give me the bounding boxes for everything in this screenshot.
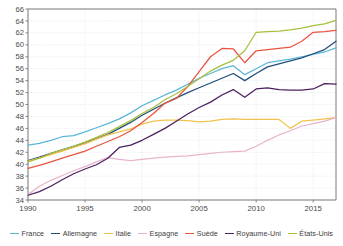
legend-label-italie: Italie bbox=[116, 230, 131, 237]
legend-label-royaume-uni: Royaume-Uni bbox=[236, 230, 281, 237]
y-tick-label: 66 bbox=[16, 5, 24, 14]
x-tick-label: 2010 bbox=[247, 204, 265, 213]
legend-swatch-espagne bbox=[138, 233, 147, 234]
legend-label-france: France bbox=[21, 230, 44, 237]
legend-swatch-tats-unis bbox=[288, 233, 297, 234]
chart-legend: FranceAllemagneItalieEspagneSuèdeRoyaume… bbox=[0, 222, 343, 246]
legend-item-france[interactable]: France bbox=[10, 230, 44, 237]
legend-item-tats-unis[interactable]: États-Unis bbox=[288, 230, 333, 237]
legend-label-espagne: Espagne bbox=[150, 230, 179, 237]
x-tick-label: 2000 bbox=[133, 204, 151, 213]
x-tick-label: 2015 bbox=[305, 204, 323, 213]
line-chart: 3436384042444648505254565860626466199019… bbox=[0, 0, 343, 246]
y-tick-label: 36 bbox=[16, 184, 24, 193]
legend-label-tats-unis: États-Unis bbox=[299, 230, 333, 237]
legend-item-italie[interactable]: Italie bbox=[104, 230, 131, 237]
legend-swatch-france bbox=[10, 233, 19, 234]
y-tick-label: 64 bbox=[16, 17, 24, 26]
y-tick-label: 56 bbox=[16, 64, 24, 73]
legend-item-royaume-uni[interactable]: Royaume-Uni bbox=[225, 230, 281, 237]
legend-label-su-de: Suède bbox=[197, 230, 218, 237]
y-tick-label: 58 bbox=[16, 52, 24, 61]
x-tick-label: 2005 bbox=[190, 204, 208, 213]
chart-svg: 3436384042444648505254565860626466199019… bbox=[0, 0, 343, 222]
legend-swatch-allemagne bbox=[51, 233, 60, 234]
y-tick-label: 62 bbox=[16, 28, 24, 37]
y-tick-label: 50 bbox=[16, 100, 24, 109]
y-tick-label: 38 bbox=[16, 172, 24, 181]
y-tick-label: 60 bbox=[16, 40, 24, 49]
legend-item-espagne[interactable]: Espagne bbox=[138, 230, 178, 237]
y-tick-label: 46 bbox=[16, 124, 24, 133]
legend-swatch-su-de bbox=[185, 233, 194, 234]
y-tick-label: 44 bbox=[16, 136, 24, 145]
y-tick-label: 52 bbox=[16, 88, 24, 97]
y-tick-label: 42 bbox=[16, 148, 24, 157]
y-tick-label: 48 bbox=[16, 112, 24, 121]
legend-swatch-royaume-uni bbox=[225, 233, 234, 234]
y-tick-label: 54 bbox=[16, 76, 24, 85]
legend-item-su-de[interactable]: Suède bbox=[185, 230, 218, 237]
x-tick-label: 1990 bbox=[19, 204, 37, 213]
x-tick-label: 1995 bbox=[76, 204, 94, 213]
y-tick-label: 40 bbox=[16, 160, 24, 169]
legend-swatch-italie bbox=[104, 233, 113, 234]
plot-area: 3436384042444648505254565860626466199019… bbox=[0, 0, 343, 222]
legend-label-allemagne: Allemagne bbox=[63, 230, 97, 237]
legend-item-allemagne[interactable]: Allemagne bbox=[51, 230, 97, 237]
